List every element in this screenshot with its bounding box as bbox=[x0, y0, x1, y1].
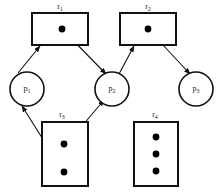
token-r3-1 bbox=[61, 141, 68, 148]
resource-label-r4: r4 bbox=[152, 111, 158, 119]
process-label-subscript-p2: 2 bbox=[113, 88, 116, 94]
resource-label-subscript-r1: 1 bbox=[60, 6, 63, 12]
edge-r1-to-p1 bbox=[18, 46, 40, 73]
resource-label-r1: r1 bbox=[57, 3, 63, 11]
resource-label-r2: r2 bbox=[145, 3, 151, 11]
resource-label-subscript-r2: 2 bbox=[148, 6, 151, 12]
resource-node-r3[interactable] bbox=[42, 122, 88, 186]
resource-label-subscript-r4: 4 bbox=[155, 114, 158, 120]
token-r4-2 bbox=[153, 151, 160, 158]
resource-label-subscript-r3: 3 bbox=[62, 114, 65, 120]
token-r2-1 bbox=[145, 26, 152, 33]
token-r4-1 bbox=[153, 134, 160, 141]
token-r4-3 bbox=[153, 168, 160, 175]
process-label-p3: p3 bbox=[193, 85, 200, 93]
process-label-subscript-p1: 1 bbox=[28, 88, 31, 94]
token-r3-2 bbox=[61, 169, 68, 176]
process-label-subscript-p3: 3 bbox=[197, 88, 200, 94]
nodes-group bbox=[10, 13, 213, 186]
resource-label-r3: r3 bbox=[59, 111, 65, 119]
diagram-vector-layer bbox=[0, 0, 216, 196]
process-label-p2: p2 bbox=[109, 85, 116, 93]
edge-p2-to-r2 bbox=[119, 46, 134, 74]
resource-allocation-graph: r1r2r3r4p1p2p3 bbox=[0, 0, 216, 196]
token-r1-1 bbox=[59, 26, 66, 33]
process-label-p1: p1 bbox=[24, 85, 31, 93]
